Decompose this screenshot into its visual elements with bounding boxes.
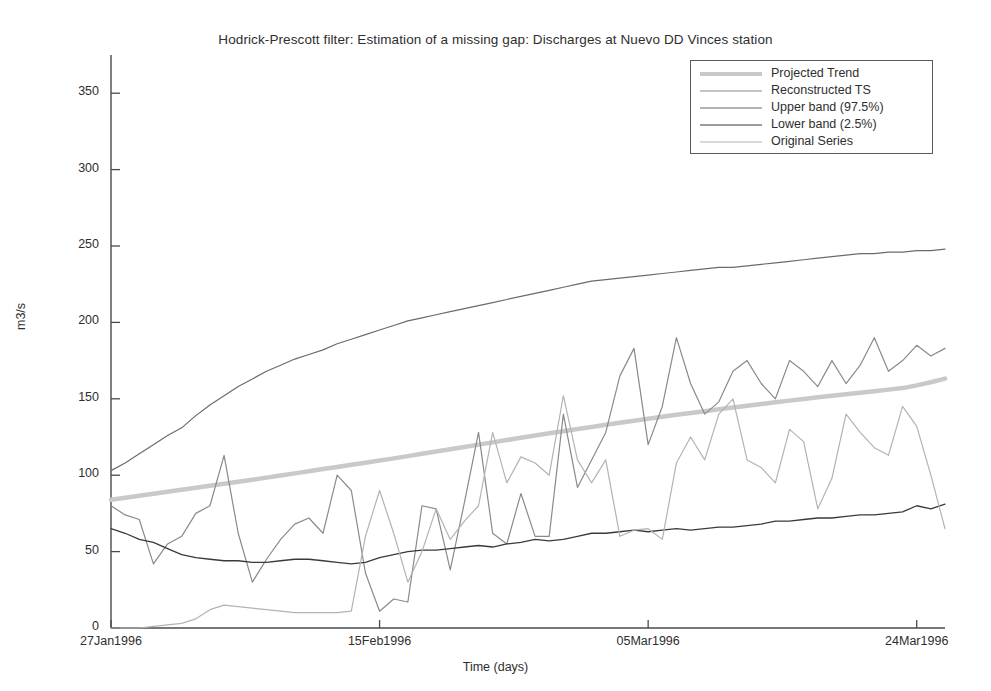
legend: Projected TrendReconstructed TSUpper ban… (690, 60, 933, 154)
y-tick-label: 100 (39, 466, 99, 480)
x-tick-label: 24Mar1996 (847, 634, 987, 648)
legend-swatch-icon (700, 85, 762, 97)
y-tick-label: 200 (39, 313, 99, 327)
series-line-1 (111, 338, 945, 612)
legend-item[interactable]: Original Series (691, 133, 932, 150)
x-tick-label: 15Feb1996 (310, 634, 450, 648)
legend-swatch-icon (700, 119, 762, 131)
legend-label: Projected Trend (771, 67, 859, 80)
legend-item[interactable]: Projected Trend (691, 65, 932, 82)
legend-item[interactable]: Upper band (97.5%) (691, 99, 932, 116)
legend-label: Original Series (771, 135, 853, 148)
figure-canvas: Hodrick-Prescott filter: Estimation of a… (0, 0, 991, 691)
legend-label: Reconstructed TS (771, 84, 871, 97)
legend-item[interactable]: Lower band (2.5%) (691, 116, 932, 133)
y-tick-label: 250 (39, 237, 99, 251)
legend-swatch-icon (700, 136, 762, 148)
series-line-0 (111, 379, 945, 500)
x-tick-label: 05Mar1996 (578, 634, 718, 648)
legend-label: Upper band (97.5%) (771, 101, 884, 114)
y-tick-label: 350 (39, 84, 99, 98)
legend-swatch-icon (700, 102, 762, 114)
legend-swatch-icon (700, 68, 762, 80)
legend-label: Lower band (2.5%) (771, 118, 877, 131)
y-tick-label: 150 (39, 390, 99, 404)
y-tick-label: 50 (39, 543, 99, 557)
series-line-4 (111, 396, 945, 628)
y-tick-label: 0 (39, 619, 99, 633)
y-tick-label: 300 (39, 161, 99, 175)
legend-item[interactable]: Reconstructed TS (691, 82, 932, 99)
x-tick-label: 27Jan1996 (41, 634, 181, 648)
